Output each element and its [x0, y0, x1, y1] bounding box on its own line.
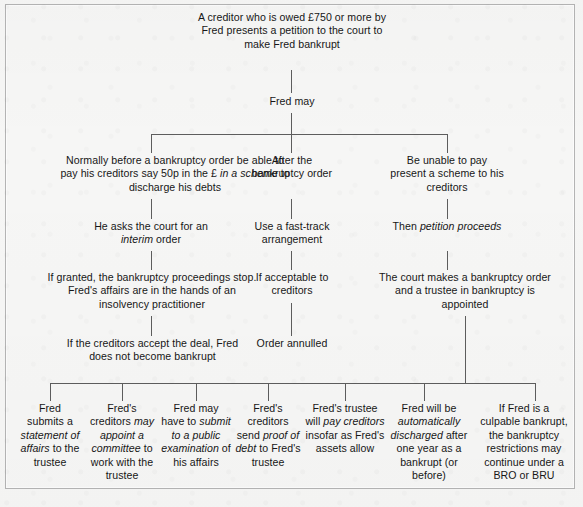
- connector-fredmay-down: [291, 113, 292, 134]
- connector-outcome-stem-1: [50, 383, 51, 401]
- node-right-3: The court makes a bankruptcy order and a…: [372, 271, 558, 311]
- outcome-column-1: Fred submits a statement of affairs to t…: [20, 402, 80, 469]
- connector-top-bus: [151, 134, 448, 135]
- node-middle-4: Order annulled: [249, 337, 335, 350]
- node-left-4: If the creditors accept the deal, Fred d…: [60, 337, 245, 364]
- connector-outcome-stem-3: [196, 383, 197, 401]
- outcome-column-5: Fred's trustee will pay creditors insofa…: [305, 402, 385, 456]
- flowchart-page: A creditor who is owed £750 or more by F…: [0, 0, 583, 507]
- outcome-column-6: Fred will be automatically discharged af…: [389, 402, 469, 482]
- connector-right-2-3: [447, 251, 448, 270]
- connector-left-1-2: [151, 199, 152, 219]
- connector-drop-left: [151, 134, 152, 153]
- connector-outcome-stem-7: [535, 383, 536, 401]
- connector-right-1-2: [447, 199, 448, 219]
- connector-outcome-stem-4: [268, 383, 269, 401]
- connector-drop-right: [447, 134, 448, 153]
- connector-mid-1-2: [291, 199, 292, 219]
- node-middle-2: Use a fast-track arrangement: [249, 220, 335, 247]
- connector-outcome-stem-5: [345, 383, 346, 401]
- connector-mid-2-3: [291, 251, 292, 270]
- node-right-1: Be unable to pay present a scheme to his…: [389, 154, 505, 194]
- connector-outcome-stem-6: [424, 383, 425, 401]
- node-right-2: Then petition proceeds: [389, 220, 505, 233]
- outcome-column-7: If Fred is a culpable bankrupt, the bank…: [480, 402, 568, 482]
- node-left-2: He asks the court for an interim order: [81, 220, 221, 247]
- connector-root-to-fredmay: [291, 70, 292, 93]
- connector-left-2-3: [151, 251, 152, 270]
- connector-left-3-4: [151, 316, 152, 336]
- connector-right-3-bus: [465, 316, 466, 383]
- connector-outcome-stem-2: [122, 383, 123, 401]
- outcome-column-4: Fred's creditors send proof of debt to F…: [235, 402, 301, 469]
- connector-mid-3-4: [291, 303, 292, 336]
- node-middle-3: If acceptable to creditors: [249, 271, 335, 298]
- connector-drop-middle: [291, 134, 292, 153]
- outcome-column-3: Fred may have to submit to a public exam…: [161, 402, 231, 469]
- node-middle-1: After the bankruptcy order: [249, 154, 335, 181]
- node-root: A creditor who is owed £750 or more by F…: [187, 11, 397, 51]
- outcome-column-2: Fred's creditors may appoint a committee…: [88, 402, 156, 482]
- node-left-3: If granted, the bankruptcy proceedings s…: [44, 271, 260, 311]
- node-fred-may: Fred may: [241, 95, 343, 108]
